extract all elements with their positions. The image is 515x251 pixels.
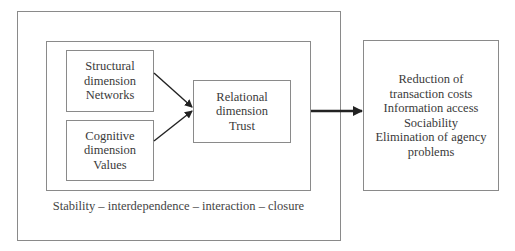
arrows-layer [0,0,515,251]
arrow-cognitive-to-relational [154,111,192,141]
arrow-structural-to-relational [154,73,192,107]
